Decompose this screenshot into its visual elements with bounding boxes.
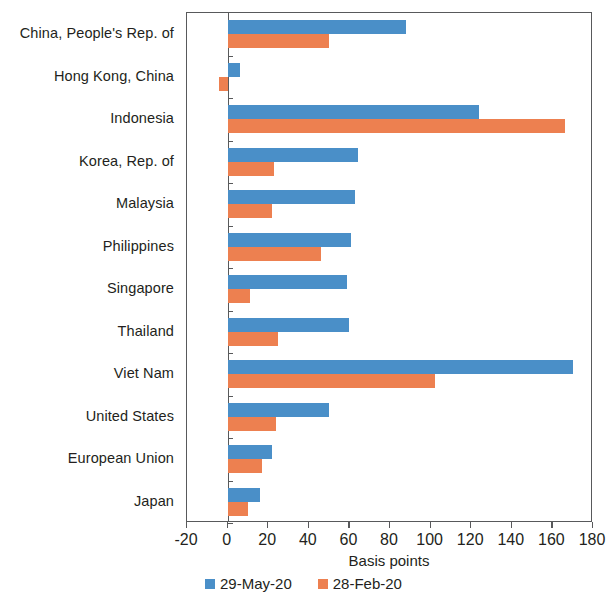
y-axis-tick <box>228 183 233 184</box>
bar-28-feb-20-10 <box>228 459 263 473</box>
y-axis-tick <box>228 396 233 397</box>
bar-28-feb-20-3 <box>228 162 275 176</box>
x-axis-tick-label: 80 <box>380 530 398 550</box>
bar-28-feb-20-7 <box>228 332 279 346</box>
x-axis-tick-label: 120 <box>457 530 484 550</box>
bar-28-feb-20-4 <box>228 204 273 218</box>
legend-item: 28-Feb-20 <box>318 575 402 592</box>
bar-28-feb-20-6 <box>228 289 250 303</box>
y-axis-label: Indonesia <box>110 110 174 126</box>
y-axis-label: Viet Nam <box>114 365 174 381</box>
bar-28-feb-20-11 <box>228 502 248 516</box>
legend-label: 28-Feb-20 <box>333 575 402 592</box>
x-axis-tick-label: 180 <box>579 530 606 550</box>
y-axis-tick <box>228 481 233 482</box>
bar-29-may-20-8 <box>228 360 573 374</box>
x-axis-tick <box>430 522 431 528</box>
x-axis-tick-labels: -20020406080100120140160180 <box>0 530 607 552</box>
bar-29-may-20-0 <box>228 20 407 34</box>
bar-29-may-20-6 <box>228 275 348 289</box>
y-axis-label: Japan <box>134 493 174 509</box>
y-axis-label: Singapore <box>107 280 174 296</box>
x-axis-tick-label: 140 <box>497 530 524 550</box>
y-axis-tick <box>228 438 233 439</box>
x-axis-tick <box>186 522 187 528</box>
y-axis-label: Korea, Rep. of <box>79 153 174 169</box>
legend-item: 29-May-20 <box>205 575 292 592</box>
x-axis-tick <box>592 522 593 528</box>
y-axis-tick <box>228 98 233 99</box>
legend-swatch-icon <box>205 579 215 589</box>
x-axis-tick <box>227 522 228 528</box>
bar-29-may-20-9 <box>228 403 330 417</box>
y-axis-tick <box>228 311 233 312</box>
legend-swatch-icon <box>318 579 328 589</box>
y-axis-label: United States <box>86 408 174 424</box>
x-axis-tick-label: 60 <box>339 530 357 550</box>
y-axis-label: Philippines <box>103 238 174 254</box>
x-axis-tick <box>348 522 349 528</box>
x-axis-tick <box>267 522 268 528</box>
bar-29-may-20-3 <box>228 148 358 162</box>
x-axis-tick-label: 20 <box>258 530 276 550</box>
bar-29-may-20-1 <box>228 63 240 77</box>
bar-29-may-20-11 <box>228 488 260 502</box>
x-axis-tick-label: 0 <box>222 530 231 550</box>
bar-28-feb-20-9 <box>228 417 277 431</box>
y-axis-category-labels: China, People's Rep. ofHong Kong, ChinaI… <box>0 12 180 522</box>
x-axis-tick <box>511 522 512 528</box>
bar-28-feb-20-1 <box>219 77 227 91</box>
bar-29-may-20-7 <box>228 318 350 332</box>
x-axis-tick-marks <box>186 522 592 529</box>
y-axis-label: Thailand <box>118 323 174 339</box>
y-axis-label: Malaysia <box>116 195 174 211</box>
bar-28-feb-20-5 <box>228 247 321 261</box>
y-axis-label: Hong Kong, China <box>54 68 174 84</box>
x-axis-tick-label: 100 <box>416 530 443 550</box>
bar-28-feb-20-8 <box>228 374 435 388</box>
plot-area <box>186 12 592 522</box>
x-axis-tick-label: 160 <box>538 530 565 550</box>
x-axis-tick-label: -20 <box>174 530 197 550</box>
y-axis-tick <box>228 353 233 354</box>
bar-29-may-20-4 <box>228 190 356 204</box>
y-axis-tick <box>228 268 233 269</box>
y-axis-tick <box>228 141 233 142</box>
y-axis-tick <box>228 226 233 227</box>
x-axis-tick <box>308 522 309 528</box>
y-axis-tick <box>228 56 233 57</box>
x-axis-tick <box>470 522 471 528</box>
x-axis-tick-label: 40 <box>299 530 317 550</box>
bar-29-may-20-10 <box>228 445 273 459</box>
x-axis-title: Basis points <box>186 552 592 569</box>
chart-figure: China, People's Rep. ofHong Kong, ChinaI… <box>0 0 607 600</box>
x-axis-tick <box>551 522 552 528</box>
chart-legend: 29-May-2028-Feb-20 <box>0 575 607 592</box>
bar-28-feb-20-2 <box>228 119 565 133</box>
x-axis-tick <box>389 522 390 528</box>
legend-label: 29-May-20 <box>220 575 292 592</box>
bar-29-may-20-2 <box>228 105 480 119</box>
bar-28-feb-20-0 <box>228 34 330 48</box>
bar-29-may-20-5 <box>228 233 352 247</box>
y-axis-label: China, People's Rep. of <box>20 25 174 41</box>
y-axis-label: European Union <box>68 450 174 466</box>
